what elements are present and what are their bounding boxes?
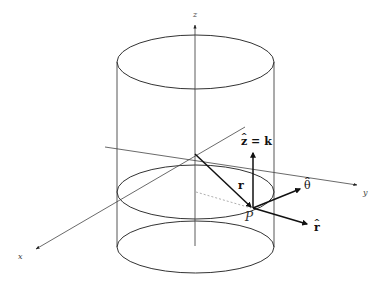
y-axis-label: y <box>363 189 368 197</box>
theta-hat-vector <box>253 189 300 208</box>
z-hat-symbol: z <box>241 136 247 147</box>
z-hat-equals-k: = k <box>247 135 272 148</box>
diagram-canvas <box>0 0 385 293</box>
z-hat-label: z = k <box>241 136 272 147</box>
y-axis <box>105 147 357 185</box>
cylinder-bottom-ellipse <box>117 221 274 273</box>
cylinder-top-ellipse <box>117 35 274 89</box>
z-axis-label: z <box>193 11 197 19</box>
r-hat-label: r <box>314 222 320 233</box>
point-p-label: P <box>245 211 253 223</box>
theta-hat-label: θ <box>304 180 311 191</box>
x-axis-label: x <box>18 253 23 261</box>
r-hat-vector <box>253 208 307 224</box>
position-vector-label: r <box>238 180 244 191</box>
r-hat-symbol: r <box>314 222 320 233</box>
theta-hat-symbol: θ <box>304 180 311 191</box>
cylindrical-coordinates-diagram: z y x r z = k θ r P <box>0 0 385 293</box>
x-axis <box>36 127 245 249</box>
